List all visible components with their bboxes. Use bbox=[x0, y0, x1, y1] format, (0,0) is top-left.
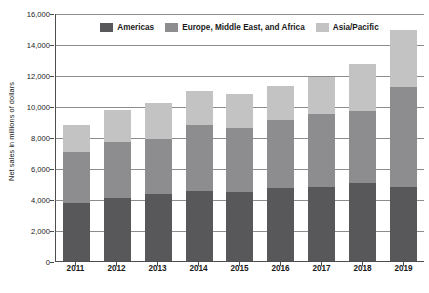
bar-segment[interactable] bbox=[104, 198, 131, 261]
x-axis-tick-label: 2015 bbox=[226, 264, 253, 273]
bars-layer bbox=[56, 14, 424, 261]
x-axis-tick-label: 2012 bbox=[103, 264, 130, 273]
x-axis-tick-label: 2019 bbox=[390, 264, 417, 273]
y-axis-tick-mark bbox=[50, 200, 54, 201]
legend-label: Asia/Pacific bbox=[333, 23, 379, 32]
bar-segment[interactable] bbox=[349, 64, 376, 111]
bar-segment[interactable] bbox=[104, 142, 131, 198]
bar-segment[interactable] bbox=[226, 94, 253, 128]
bar-segment[interactable] bbox=[267, 188, 294, 261]
x-axis-tick-labels: 201120122013201420152016201720182019 bbox=[55, 264, 424, 280]
chart-legend: AmericasEurope, Middle East, and AfricaA… bbox=[55, 20, 424, 35]
bar-segment[interactable] bbox=[308, 187, 335, 261]
bar-segment[interactable] bbox=[145, 103, 172, 139]
bar-segment[interactable] bbox=[267, 120, 294, 188]
bar-segment[interactable] bbox=[349, 111, 376, 183]
bar-group[interactable] bbox=[186, 14, 213, 261]
x-axis-tick-label: 2011 bbox=[62, 264, 89, 273]
y-axis-tick-mark bbox=[50, 107, 54, 108]
y-axis-tick-mark bbox=[50, 138, 54, 139]
legend-swatch bbox=[316, 23, 329, 32]
bar-segment[interactable] bbox=[226, 192, 253, 261]
bar-segment[interactable] bbox=[349, 183, 376, 261]
legend-label: Americas bbox=[117, 23, 154, 32]
stacked-bar-chart: Net sales in millions of dollars 02,0004… bbox=[0, 0, 429, 293]
bar-segment[interactable] bbox=[390, 30, 417, 87]
legend-label: Europe, Middle East, and Africa bbox=[182, 23, 305, 32]
bar-segment[interactable] bbox=[390, 187, 417, 261]
bar-segment[interactable] bbox=[145, 139, 172, 195]
legend-swatch bbox=[100, 23, 113, 32]
y-axis-tick-mark bbox=[50, 76, 54, 77]
bar-group[interactable] bbox=[145, 14, 172, 261]
bar-segment[interactable] bbox=[145, 194, 172, 261]
y-axis-tick-mark bbox=[50, 262, 54, 263]
bar-segment[interactable] bbox=[63, 152, 90, 203]
x-axis-tick-label: 2018 bbox=[349, 264, 376, 273]
bar-group[interactable] bbox=[104, 14, 131, 261]
y-axis-tick-mark bbox=[50, 45, 54, 46]
bar-group[interactable] bbox=[226, 14, 253, 261]
legend-item[interactable]: Americas bbox=[100, 23, 154, 32]
x-axis-tick-label: 2014 bbox=[185, 264, 212, 273]
bar-group[interactable] bbox=[267, 14, 294, 261]
bar-group[interactable] bbox=[308, 14, 335, 261]
x-axis-tick-label: 2013 bbox=[144, 264, 171, 273]
bar-segment[interactable] bbox=[390, 87, 417, 187]
x-axis-tick-label: 2016 bbox=[267, 264, 294, 273]
bar-segment[interactable] bbox=[63, 125, 90, 152]
y-axis-tick-mark bbox=[50, 231, 54, 232]
bar-segment[interactable] bbox=[308, 114, 335, 187]
bar-segment[interactable] bbox=[308, 77, 335, 113]
bar-group[interactable] bbox=[390, 14, 417, 261]
bar-group[interactable] bbox=[63, 14, 90, 261]
bar-segment[interactable] bbox=[186, 91, 213, 125]
bar-segment[interactable] bbox=[226, 128, 253, 192]
legend-swatch bbox=[165, 23, 178, 32]
bar-segment[interactable] bbox=[186, 125, 213, 191]
legend-item[interactable]: Europe, Middle East, and Africa bbox=[165, 23, 305, 32]
x-axis-tick-label: 2017 bbox=[308, 264, 335, 273]
bar-segment[interactable] bbox=[63, 203, 90, 261]
y-axis-tick-mark bbox=[50, 14, 54, 15]
y-axis-tick-mark bbox=[50, 169, 54, 170]
legend-item[interactable]: Asia/Pacific bbox=[316, 23, 379, 32]
bar-segment[interactable] bbox=[186, 191, 213, 261]
bar-segment[interactable] bbox=[104, 110, 131, 143]
y-axis-tick-marks bbox=[0, 14, 55, 262]
bar-segment[interactable] bbox=[267, 86, 294, 120]
plot-area bbox=[55, 14, 424, 262]
bar-group[interactable] bbox=[349, 14, 376, 261]
